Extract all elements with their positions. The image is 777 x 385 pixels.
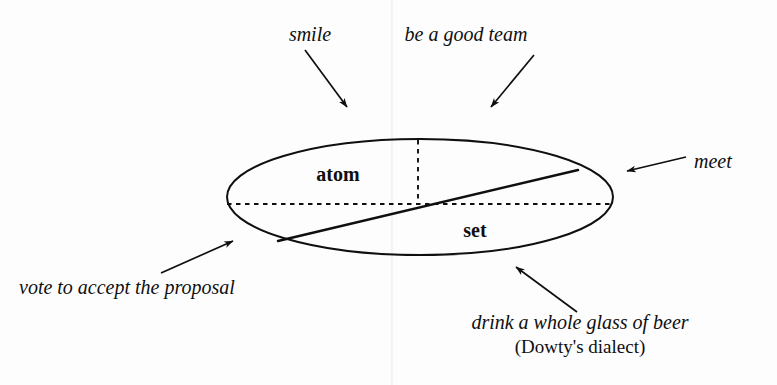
figure-canvas: smile be a good team meet atom set vote …: [0, 0, 777, 385]
callout-label-be-a-good-team: be a good team: [405, 23, 528, 45]
region-label-set: set: [463, 219, 486, 241]
callout-label-dowtys-dialect: (Dowty's dialect): [515, 336, 646, 357]
callout-label-smile: smile: [289, 23, 331, 45]
callout-label-drink-a-whole-glass-of-beer: drink a whole glass of beer: [471, 311, 688, 333]
arrow-drink-a-whole-glass-of-beer: [516, 267, 577, 312]
region-label-atom: atom: [316, 163, 359, 185]
arrow-smile: [305, 50, 347, 107]
arrow-vote-to-accept-the-proposal: [161, 241, 233, 273]
callout-label-meet: meet: [694, 150, 732, 172]
callout-label-vote-to-accept-the-proposal: vote to accept the proposal: [19, 276, 235, 298]
arrow-be-a-good-team: [491, 55, 534, 107]
arrow-meet: [627, 157, 686, 171]
main-ellipse: [227, 139, 613, 255]
